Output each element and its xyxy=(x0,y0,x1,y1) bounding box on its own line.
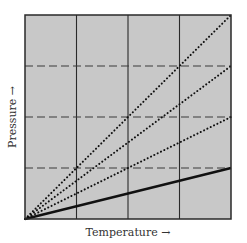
x-axis-label: Temperature → xyxy=(86,226,171,239)
pressure-temperature-chart: Temperature → Pressure → xyxy=(0,0,247,243)
y-axis-label: Pressure → xyxy=(6,86,19,148)
